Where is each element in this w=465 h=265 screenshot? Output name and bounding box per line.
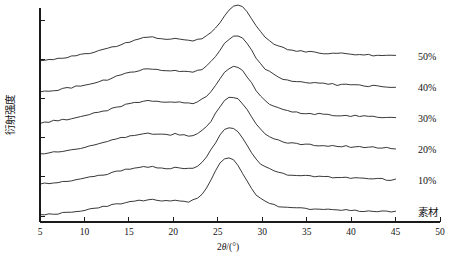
- x-axis-tick-label: 5: [38, 227, 43, 237]
- x-axis-tick-label: 35: [302, 227, 312, 237]
- series-label-2: 30%: [418, 113, 436, 124]
- diffraction-curve: [40, 158, 396, 215]
- series-label-1: 40%: [418, 82, 436, 93]
- series-label-0: 50%: [418, 51, 436, 62]
- y-axis-ticks: [40, 20, 45, 216]
- x-axis-tick-label: 20: [169, 227, 179, 237]
- x-axis-ticks: [40, 217, 440, 222]
- diffraction-curve: [40, 5, 396, 61]
- series-labels-group: 50%40%30%20%10%素材: [418, 51, 439, 218]
- series-label-4: 10%: [418, 175, 436, 186]
- diffraction-curve: [40, 66, 396, 123]
- x-axis-tick-labels: 5101520253035404550: [38, 227, 445, 237]
- axes-group: [40, 8, 440, 222]
- x-axis-tick-label: 45: [391, 227, 401, 237]
- diffraction-curve: [40, 97, 396, 154]
- x-axis-tick-label: 15: [124, 227, 134, 237]
- diffraction-curve: [40, 128, 396, 184]
- diffraction-curve: [40, 36, 396, 92]
- xrd-chart-svg: 5101520253035404550 50%40%30%20%10%素材 2θ…: [0, 0, 465, 265]
- chart-figure: 5101520253035404550 50%40%30%20%10%素材 2θ…: [0, 0, 465, 265]
- x-axis-tick-label: 30: [257, 227, 267, 237]
- x-axis-tick-label: 40: [346, 227, 356, 237]
- diffraction-curves: [40, 5, 396, 215]
- series-label-5: 素材: [418, 206, 439, 218]
- x-axis-title: 2θ/(°): [217, 242, 239, 253]
- x-axis-title-suffix: /(°): [226, 242, 239, 253]
- x-axis-tick-label: 25: [213, 227, 223, 237]
- series-label-3: 20%: [418, 144, 436, 155]
- x-axis-tick-label: 10: [80, 227, 90, 237]
- y-axis-title: 衍射强度: [4, 94, 16, 135]
- x-axis-tick-label: 50: [435, 227, 445, 237]
